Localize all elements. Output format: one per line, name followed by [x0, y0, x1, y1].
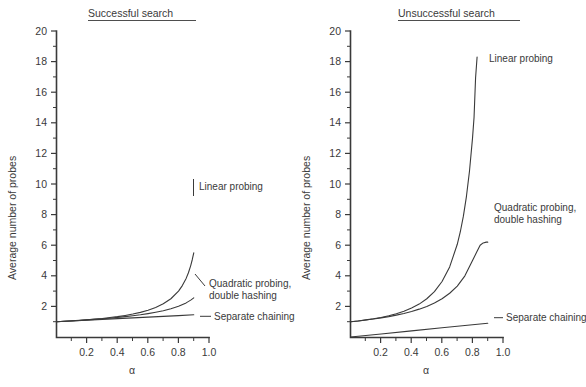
- annotation-separate-chaining-unsuccessful: Separate chaining: [506, 312, 586, 323]
- chart-canvas: Successful search Average number of prob…: [0, 0, 586, 387]
- panel-successful-search: Successful search Average number of prob…: [6, 7, 295, 376]
- annotation-linear-probing-unsuccessful: Linear probing: [489, 53, 553, 64]
- axis-lines-successful: [57, 31, 210, 338]
- y-tick-label: 4: [41, 269, 47, 281]
- panel-title-unsuccessful: Unsuccessful search: [398, 7, 495, 19]
- x-tick-label: 0.4: [110, 346, 125, 358]
- y-tick-label: 8: [41, 208, 47, 220]
- y-tick-label: 10: [329, 178, 341, 190]
- x-tick-label: 0.6: [434, 346, 449, 358]
- y-tick-labels-unsuccessful: 20 18 16 14 12 10 8 6 4 2: [329, 25, 341, 312]
- x-axis-label-unsuccessful: α: [423, 364, 429, 376]
- x-tick-labels-successful: 0.2 0.4 0.6 0.8 1.0: [79, 346, 216, 358]
- annotation-linear-probing-successful: Linear probing: [199, 181, 263, 192]
- panel-title-successful: Successful search: [88, 7, 173, 19]
- y-tick-label: 10: [35, 178, 47, 190]
- x-axis-label-successful: α: [129, 364, 135, 376]
- x-tick-label: 0.6: [140, 346, 155, 358]
- curve-separate-chaining-unsuccessful: [351, 323, 488, 337]
- x-tick-label: 0.4: [404, 346, 419, 358]
- y-tick-labels-successful: 20 18 16 14 12 10 8 6 4 2: [35, 25, 47, 312]
- y-ticks-successful: [51, 31, 56, 322]
- annotation-quadratic-successful-line2: double hashing: [209, 290, 277, 301]
- x-tick-labels-unsuccessful: 0.2 0.4 0.6 0.8 1.0: [373, 346, 510, 358]
- y-tick-label: 20: [329, 25, 341, 37]
- curve-linear-probing-unsuccessful: [351, 57, 477, 322]
- hashing-performance-figure: Successful search Average number of prob…: [0, 0, 586, 387]
- y-axis-label-unsuccessful: Average number of probes: [300, 156, 312, 280]
- y-tick-label: 6: [335, 239, 341, 251]
- panel-unsuccessful-search: Unsuccessful search Average number of pr…: [300, 7, 586, 376]
- y-tick-label: 6: [41, 239, 47, 251]
- y-tick-label: 16: [329, 86, 341, 98]
- annotation-quadratic-unsuccessful-line2: double hashing: [494, 214, 562, 225]
- x-tick-label: 0.2: [373, 346, 388, 358]
- x-tick-label: 0.2: [79, 346, 94, 358]
- y-tick-label: 18: [35, 55, 47, 67]
- y-tick-label: 8: [335, 208, 341, 220]
- y-tick-label: 18: [329, 55, 341, 67]
- annotation-quadratic-unsuccessful-line1: Quadratic probing,: [494, 202, 576, 213]
- y-tick-label: 4: [335, 269, 341, 281]
- axis-lines-unsuccessful: [351, 31, 504, 338]
- y-ticks-unsuccessful: [345, 31, 350, 322]
- annotation-separate-chaining-successful: Separate chaining: [214, 311, 295, 322]
- x-tick-label: 0.8: [171, 346, 186, 358]
- y-tick-label: 2: [335, 300, 341, 312]
- x-tick-label: 1.0: [202, 346, 217, 358]
- y-tick-label: 14: [35, 116, 47, 128]
- curve-linear-probing-successful: [57, 253, 194, 322]
- curve-quadratic-unsuccessful: [351, 242, 488, 322]
- y-tick-label: 14: [329, 116, 341, 128]
- y-axis-label-successful: Average number of probes: [6, 156, 18, 280]
- leader-quadratic-successful: [195, 274, 205, 286]
- annotation-quadratic-successful-line1: Quadratic probing,: [209, 278, 291, 289]
- y-tick-label: 2: [41, 300, 47, 312]
- y-tick-label: 12: [35, 147, 47, 159]
- y-tick-label: 20: [35, 25, 47, 37]
- y-tick-label: 12: [329, 147, 341, 159]
- x-tick-label: 0.8: [465, 346, 480, 358]
- y-tick-label: 16: [35, 86, 47, 98]
- x-tick-label: 1.0: [496, 346, 511, 358]
